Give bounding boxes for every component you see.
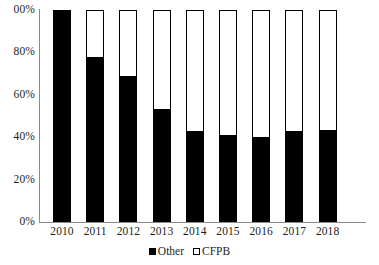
y-axis-tick-5: 0% [0,216,35,228]
bar-group-2017[interactable] [285,10,303,222]
bar-segment-other-2018[interactable] [319,130,337,222]
legend-label: Other [158,246,184,258]
bar-group-2015[interactable] [219,10,237,222]
bar-segment-cfpb-2015[interactable] [219,10,237,136]
legend-swatch-filled-square-icon [149,248,156,255]
bar-segment-cfpb-2012[interactable] [119,10,137,77]
chart-figure: 00%80%60%40%20%0% 2010201120122013201420… [0,0,379,265]
bar-segment-cfpb-2018[interactable] [319,10,337,131]
bar-group-2016[interactable] [252,10,270,222]
bar-segment-cfpb-2011[interactable] [86,10,104,58]
bar-segment-cfpb-2013[interactable] [153,10,171,110]
bar-segment-other-2011[interactable] [86,57,104,222]
bar-group-2010[interactable] [53,10,71,222]
bar-segment-other-2015[interactable] [219,135,237,222]
bar-group-2018[interactable] [319,10,337,222]
bar-group-2012[interactable] [119,10,137,222]
y-axis-tick-1: 80% [0,46,35,58]
bar-segment-other-2012[interactable] [119,76,137,222]
bar-segment-other-2010[interactable] [53,10,71,222]
legend-item-cfpb[interactable]: CFPB [193,246,230,258]
x-axis-line [39,222,366,223]
bar-segment-cfpb-2014[interactable] [186,10,204,132]
chart-legend: OtherCFPB [0,246,379,258]
y-axis-tick-labels: 00%80%60%40%20%0% [0,0,35,265]
y-axis-tick-0: 00% [0,4,35,16]
bar-group-2014[interactable] [186,10,204,222]
bar-segment-cfpb-2016[interactable] [252,10,270,138]
y-axis-tick-4: 20% [0,174,35,186]
legend-swatch-open-square-icon [193,248,200,255]
bar-segment-other-2014[interactable] [186,131,204,222]
bar-segment-other-2017[interactable] [285,131,303,222]
plot-area [40,10,362,222]
bar-segment-other-2013[interactable] [153,109,171,222]
y-axis-tick-3: 40% [0,131,35,143]
x-axis-tick-2018: 2018 [305,226,351,238]
bar-group-2013[interactable] [153,10,171,222]
y-axis-tick-2: 60% [0,89,35,101]
bar-segment-cfpb-2017[interactable] [285,10,303,132]
bar-group-2011[interactable] [86,10,104,222]
legend-label: CFPB [202,246,230,258]
legend-item-other[interactable]: Other [149,246,184,258]
bar-segment-other-2016[interactable] [252,137,270,222]
